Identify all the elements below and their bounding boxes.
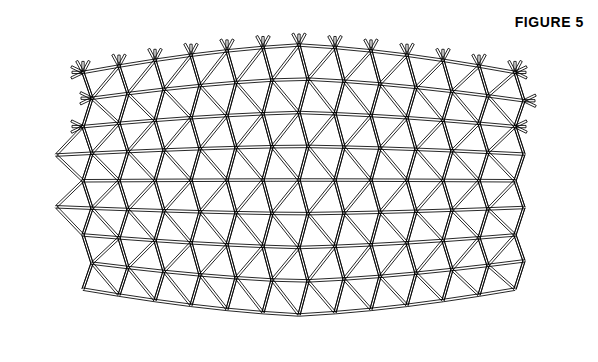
- lattice-struts: [55, 44, 525, 316]
- patent-figure: FIGURE 5: [0, 0, 598, 362]
- perimeter-stub-struts: [71, 33, 536, 133]
- dome-drawing: [0, 0, 598, 362]
